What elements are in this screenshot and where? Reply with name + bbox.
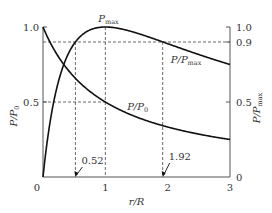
series-label-pmax: P/Pmax: [170, 54, 202, 67]
x-tick-label: 2: [164, 182, 170, 193]
right-tick-label: 0.5: [236, 97, 252, 108]
x-tick-label: 0: [34, 182, 40, 193]
left-tick-label: 1.0: [23, 22, 39, 33]
power-ratio-chart: 0.51.000.50.91.00123 r/RP/P0P/PmaxPmaxP/…: [0, 0, 272, 213]
series-line-p-p0: [43, 27, 230, 140]
x-axis-title: r/R: [129, 196, 145, 207]
right-axis-title: P/Pmax: [251, 92, 264, 124]
x-tick-label: 3: [227, 182, 233, 193]
left-tick-label: 0.5: [23, 97, 39, 108]
peak-label: Pmax: [97, 13, 119, 26]
marker-low-label: 0.52: [81, 155, 103, 166]
left-axis-title: P/P0: [8, 106, 21, 128]
marker-high-label: 1.92: [169, 151, 191, 162]
right-tick-label: 0: [236, 172, 242, 183]
right-tick-label: 0.9: [236, 37, 252, 48]
x-tick-label: 1: [102, 182, 108, 193]
right-tick-label: 1.0: [236, 22, 252, 33]
marker-low-arrowhead: [74, 171, 78, 177]
series-label-p0: P/P0: [126, 101, 148, 114]
